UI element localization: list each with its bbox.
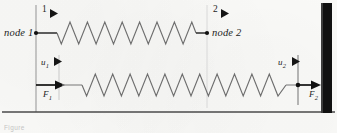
- node1-label: node 1: [4, 28, 34, 39]
- F1-label: F1: [43, 90, 52, 101]
- F2-subscript: 2: [315, 94, 318, 101]
- u2-subscript: 2: [283, 62, 286, 69]
- top-spring-coil: [57, 22, 196, 44]
- u2-label: u2: [278, 58, 286, 69]
- u1-label: u1: [41, 58, 49, 69]
- dof2-number-label: 2: [213, 5, 218, 15]
- u2-arrow-icon: [292, 57, 300, 66]
- F1-subscript: 1: [49, 94, 52, 101]
- dof2-arrow-icon: [221, 9, 229, 18]
- diagram-canvas: [0, 0, 337, 133]
- figure-caption: Figure: [4, 124, 25, 132]
- node2-dot: [205, 31, 209, 35]
- fixed-wall-highlight: [321, 3, 323, 113]
- dof1-arrow-icon: [50, 9, 58, 18]
- dof1-number-label: 1: [42, 5, 47, 15]
- spring-element-figure: node 1 node 2 1 2 u1 u2 F1 F2 Figure: [0, 0, 337, 133]
- node1-dot: [34, 31, 38, 35]
- bottom-spring-coil: [82, 74, 286, 96]
- u1-subscript: 1: [46, 62, 49, 69]
- F2-label: F2: [309, 90, 318, 101]
- u1-arrow-icon: [54, 57, 62, 66]
- node2-label: node 2: [212, 28, 242, 39]
